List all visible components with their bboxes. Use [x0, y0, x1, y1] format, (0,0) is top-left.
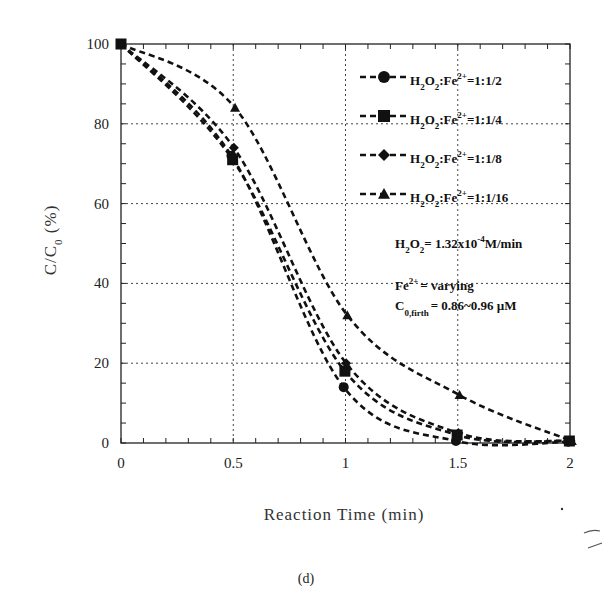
y-tick-label: 0: [102, 435, 110, 451]
square-marker-icon: [227, 154, 238, 165]
x-axis-title: Reaction Time (min): [264, 505, 425, 524]
legend-label: H2O2:Fe2+=1:1/8: [410, 149, 502, 170]
legend-label: H2O2:Fe2+=1:1/2: [410, 71, 502, 92]
x-tick-label: 1: [342, 455, 350, 471]
triangle-marker-icon: [230, 103, 240, 112]
chart: 00.511.52020406080100 H2O2:Fe2+=1:1/2H2O…: [0, 0, 612, 601]
circle-marker-icon: [378, 71, 390, 83]
x-tick-label: 1.5: [448, 455, 467, 471]
square-marker-icon: [378, 110, 390, 122]
legend-label: H2O2:Fe2+=1:1/4: [410, 110, 502, 131]
legend-item: H2O2:Fe2+=1:1/2: [360, 71, 502, 92]
legend-item: H2O2:Fe2+=1:1/16: [360, 188, 509, 209]
y-tick-label: 80: [94, 116, 109, 132]
y-tick-label: 100: [87, 36, 110, 52]
figure-caption: (d): [298, 571, 315, 587]
y-axis-title: C/C0 (%): [41, 205, 64, 276]
annotation-block: H2O2= 1.32x10-4M/min Fe2+= varying C0,fi…: [395, 234, 523, 318]
stray-marks: [561, 508, 602, 548]
x-tick-label: 2: [566, 455, 574, 471]
triangle-marker-icon: [378, 188, 390, 199]
y-tick-label: 20: [94, 355, 109, 371]
y-tick-label: 40: [94, 275, 109, 291]
square-marker-icon: [339, 366, 350, 377]
axes: 00.511.52020406080100: [87, 36, 574, 471]
diamond-marker-icon: [378, 149, 390, 161]
annotation-h2o2-rate: H2O2= 1.32x10-4M/min: [395, 234, 523, 255]
annotation-fe-varying: Fe2+= varying: [395, 276, 474, 293]
legend-item: H2O2:Fe2+=1:1/8: [360, 149, 502, 170]
y-tick-label: 60: [94, 196, 109, 212]
circle-marker-icon: [339, 382, 349, 392]
legend-item: H2O2:Fe2+=1:1/4: [360, 110, 502, 131]
legend: H2O2:Fe2+=1:1/2H2O2:Fe2+=1:1/4H2O2:Fe2+=…: [360, 71, 509, 209]
annotation-c0: C0,firth= 0.86~0.96 µM: [395, 298, 517, 318]
x-tick-label: 0.5: [224, 455, 243, 471]
x-tick-label: 0: [117, 455, 125, 471]
legend-label: H2O2:Fe2+=1:1/16: [410, 188, 509, 209]
